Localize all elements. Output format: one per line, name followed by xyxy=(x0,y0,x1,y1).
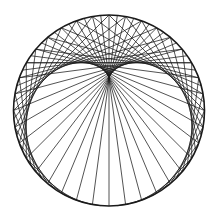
chord-lines xyxy=(14,15,205,206)
chord-line xyxy=(15,49,182,94)
chord-line xyxy=(31,56,199,78)
chord-line xyxy=(36,24,150,172)
chord-line xyxy=(36,49,203,94)
chord-line xyxy=(177,111,205,179)
cardioid-figure xyxy=(0,0,214,213)
chord-line xyxy=(26,158,61,193)
string-art-diagram xyxy=(0,0,214,213)
chord-line xyxy=(157,28,202,135)
chord-line xyxy=(157,158,192,193)
chord-line xyxy=(92,15,117,204)
chord-line xyxy=(142,21,203,127)
chord-line xyxy=(69,24,183,172)
chord-line xyxy=(14,111,42,179)
chord-line xyxy=(17,28,62,135)
chord-line xyxy=(101,15,126,204)
